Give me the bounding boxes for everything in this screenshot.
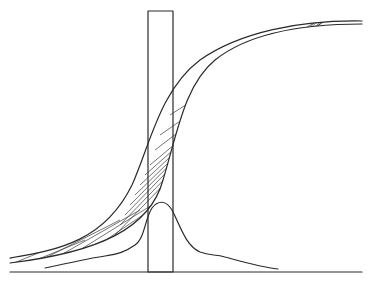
vertical-band: [148, 11, 173, 272]
upper-sigmoid-curve: [10, 21, 362, 258]
lower-sigmoid-curve: [10, 24, 362, 263]
hatched-region: [0, 0, 365, 281]
bell-curve: [45, 202, 278, 269]
diagram-svg: [0, 0, 374, 281]
diagram-canvas: [0, 0, 374, 281]
